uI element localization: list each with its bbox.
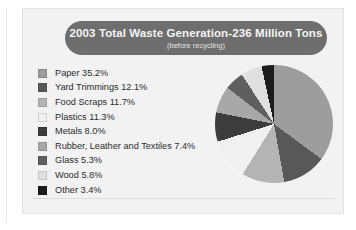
legend-item: Metals 8.0% [38,124,228,139]
legend-item-label: Metals 8.0% [55,126,106,137]
legend-item: Yard Trimmings 12.1% [38,81,228,96]
legend-item: Paper 35.2% [38,66,228,81]
chart-card: 2003 Total Waste Generation-236 Million … [22,8,344,214]
legend-item: Glass 5.3% [38,154,228,169]
legend-item-label: Glass 5.3% [55,155,102,166]
page-subtitle: (before recycling) [167,41,225,50]
legend-item-label: Other 3.4% [55,185,101,196]
pie-chart-slices [215,65,333,183]
legend-color-swatch [38,69,47,78]
legend-color-swatch [38,186,47,195]
legend-item-label: Food Scraps 11.7% [55,97,135,108]
legend-item-label: Plastics 11.3% [55,112,115,123]
legend-item-label: Wood 5.8% [55,170,102,181]
pie-chart [209,59,339,189]
chart-card-root: 2003 Total Waste Generation-236 Million … [0,0,356,230]
legend-color-swatch [38,127,47,136]
legend-color-swatch [38,142,47,151]
legend-color-swatch [38,98,47,107]
legend-color-swatch [38,113,47,122]
legend-item: Plastics 11.3% [38,110,228,125]
legend-color-swatch [38,171,47,180]
card-footer-divider [31,198,335,199]
legend-item: Rubber, Leather and Textiles 7.4% [38,139,228,154]
chart-legend: Paper 35.2%Yard Trimmings 12.1%Food Scra… [38,66,228,197]
legend-item: Wood 5.8% [38,168,228,183]
chart-title-banner: 2003 Total Waste Generation-236 Million … [65,21,327,55]
legend-color-swatch [38,83,47,92]
legend-item: Other 3.4% [38,183,228,198]
legend-item-label: Yard Trimmings 12.1% [55,82,147,93]
legend-color-swatch [38,156,47,165]
left-margin-rule [6,8,7,222]
legend-item: Food Scraps 11.7% [38,95,228,110]
page-title: 2003 Total Waste Generation-236 Million … [70,27,323,40]
legend-item-label: Paper 35.2% [55,68,108,79]
legend-item-label: Rubber, Leather and Textiles 7.4% [55,141,195,152]
